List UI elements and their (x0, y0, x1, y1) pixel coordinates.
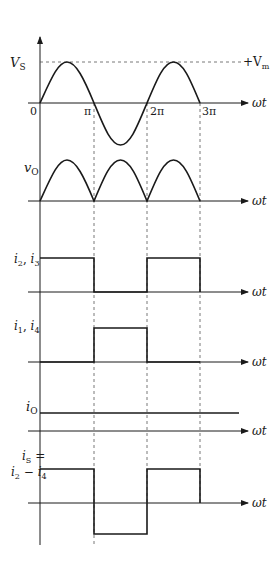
io-label: iO (26, 399, 38, 416)
vm-annotation: +Vm (243, 55, 270, 71)
omega-t-label: ωt (252, 355, 267, 369)
omega-t-label: ωt (252, 96, 267, 110)
panel-i2-i3: i2, i3 ωt (14, 252, 267, 299)
panel-is: iS = i2 − i4 ωt (11, 449, 267, 534)
rectifier-waveform-diagram: VS +Vm 0 π 2π 3π ωt vO ωt i2, i3 ωt i1, … (0, 0, 280, 562)
tick-3pi: 3π (202, 105, 216, 118)
omega-t-label: ωt (252, 194, 267, 208)
is-label-line1: iS = (22, 449, 45, 465)
vo-rectified-wave (40, 160, 200, 201)
tick-zero: 0 (30, 105, 37, 118)
omega-t-label: ωt (252, 285, 267, 299)
i14-label: i1, i4 (14, 319, 40, 335)
is-square-wave (40, 469, 200, 534)
omega-t-label: ωt (252, 496, 267, 510)
is-label-line2: i2 − i4 (11, 465, 47, 481)
i23-square-wave (40, 258, 200, 292)
omega-t-label: ωt (252, 424, 267, 438)
panel-vs: VS +Vm 0 π 2π 3π ωt (10, 55, 270, 145)
vs-label: VS (10, 55, 26, 72)
tick-2pi: 2π (150, 105, 164, 118)
panel-io: iO ωt (26, 399, 267, 438)
panel-i1-i4: i1, i4 ωt (14, 319, 267, 369)
i23-label: i2, i3 (14, 252, 40, 268)
panel-vo: vO ωt (24, 160, 267, 208)
tick-pi: π (84, 105, 91, 118)
vo-label: vO (24, 160, 39, 177)
i14-square-wave (40, 328, 200, 362)
